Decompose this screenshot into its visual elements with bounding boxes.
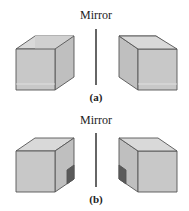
panel-b: Mirror (b) [16,113,177,206]
cube-left-b [16,138,74,192]
cube-left-a [16,36,74,90]
panel-label-a: (a) [90,91,103,104]
panel-label-b: (b) [89,193,103,206]
cube-right-b [119,138,177,192]
panel-a: Mirror (a) [16,8,177,104]
mirror-label-b: Mirror [80,113,112,127]
mirror-label-a: Mirror [80,8,112,22]
cube-front-face [16,151,55,192]
cube-right-a [119,36,177,90]
cube-front-face [138,151,177,192]
mirror-image-diagram: Mirror (a) Mirror (b) [0,0,189,211]
